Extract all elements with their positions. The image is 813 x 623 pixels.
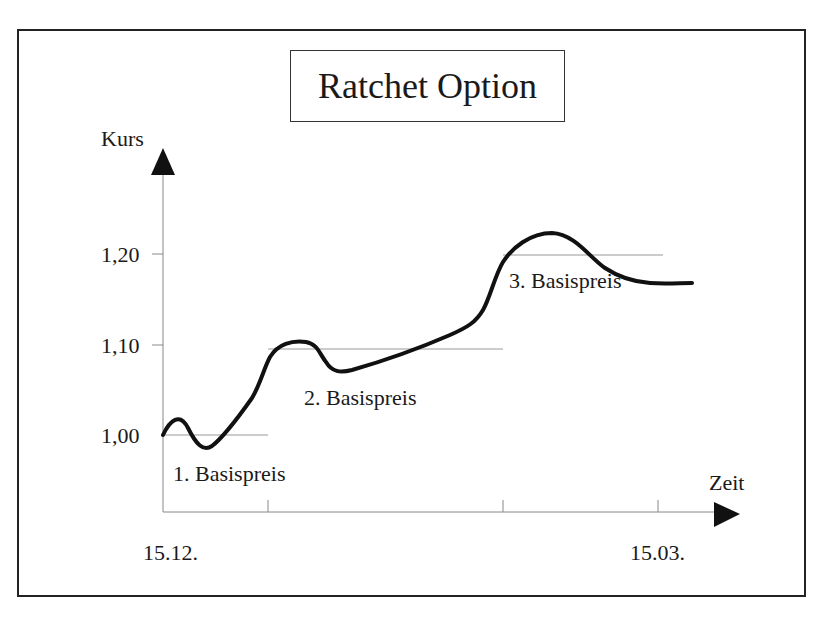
y-tick-label-100: 1,00 [101,425,140,447]
x-axis-arrow-icon [714,502,740,527]
x-start-label: 15.12. [143,542,198,564]
strike-label-1: 1. Basispreis [173,463,285,485]
plot-area [0,0,813,623]
y-axis-arrow-icon [151,148,175,175]
y-axis-label: Kurs [101,128,144,150]
x-end-label: 15.03. [630,542,685,564]
strike-label-3: 3. Basispreis [509,270,621,292]
strike-label-2: 2. Basispreis [304,387,416,409]
x-axis-label: Zeit [709,472,744,494]
y-tick-label-110: 1,10 [101,335,140,357]
y-tick-label-120: 1,20 [101,244,140,266]
price-curve [163,233,692,448]
